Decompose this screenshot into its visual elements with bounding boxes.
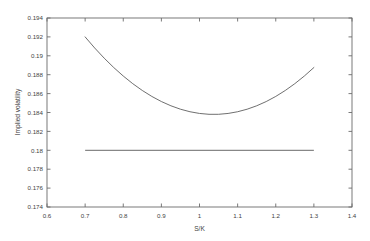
x-tick-label: 1.1: [233, 212, 242, 219]
y-tick-label: 0.19: [31, 52, 44, 59]
y-tick-label: 0.194: [28, 14, 44, 21]
y-tick-label: 0.182: [28, 128, 44, 135]
y-tick-label: 0.192: [28, 33, 44, 40]
y-tick-label: 0.174: [28, 203, 44, 210]
chart-canvas: 0.60.70.80.911.11.21.31.4 0.1740.1760.17…: [0, 0, 370, 241]
implied-volatility-chart: 0.60.70.80.911.11.21.31.4 0.1740.1760.17…: [0, 0, 370, 241]
x-tick-label: 0.6: [43, 212, 52, 219]
x-tick-label: 0.7: [81, 212, 90, 219]
y-tick-label: 0.186: [28, 90, 44, 97]
y-tick-label: 0.18: [31, 147, 44, 154]
x-tick-label: 1.4: [348, 212, 357, 219]
y-tick-label: 0.188: [28, 71, 44, 78]
chart-background: [0, 0, 370, 241]
x-tick-label: 1: [198, 212, 202, 219]
x-tick-label: 0.8: [119, 212, 128, 219]
x-tick-label: 0.9: [157, 212, 166, 219]
x-tick-label: 1.2: [271, 212, 280, 219]
y-tick-label: 0.176: [28, 184, 44, 191]
x-tick-label: 1.3: [310, 212, 319, 219]
y-tick-label: 0.178: [28, 165, 44, 172]
x-axis-label: S/K: [194, 225, 205, 232]
y-axis-label: Implied volatility: [14, 88, 22, 135]
y-tick-label: 0.184: [28, 109, 44, 116]
